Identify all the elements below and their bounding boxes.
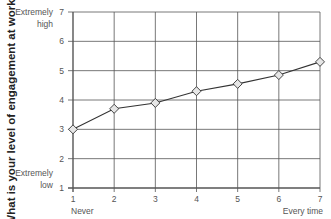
tick-labels: 12345671234567 (59, 7, 322, 204)
data-point-diamond (233, 79, 242, 88)
x-tick-label: 5 (235, 194, 240, 204)
data-point-diamond (316, 57, 325, 66)
data-point-diamond (274, 71, 283, 80)
x-tick-label: 4 (194, 194, 199, 204)
x-tick-label: 2 (112, 194, 117, 204)
x-tick-label: 7 (318, 194, 323, 204)
y-tick-label: 1 (59, 183, 64, 193)
data-point-diamond (192, 87, 201, 96)
data-point-diamond (110, 104, 119, 113)
y-annotation: Extremely (15, 7, 54, 17)
y-tick-label: 6 (59, 36, 64, 46)
x-tick-label: 3 (153, 194, 158, 204)
y-annotation: Extremely (15, 168, 54, 178)
grid-lines (68, 12, 320, 192)
y-annotation: low (40, 180, 54, 190)
y-tick-label: 4 (59, 95, 64, 105)
y-annotation: high (37, 19, 53, 29)
x-tick-label: 1 (71, 194, 76, 204)
x-annotation: Every time (283, 206, 323, 216)
y-tick-label: 2 (59, 154, 64, 164)
y-tick-label: 5 (59, 66, 64, 76)
y-tick-label: 7 (59, 7, 64, 17)
data-point-diamond (69, 125, 78, 134)
x-tick-label: 6 (276, 194, 281, 204)
x-annotation: Never (71, 206, 94, 216)
line-chart: 12345671234567 ExtremelylowExtremelyhigh… (0, 0, 331, 219)
y-tick-label: 3 (59, 124, 64, 134)
